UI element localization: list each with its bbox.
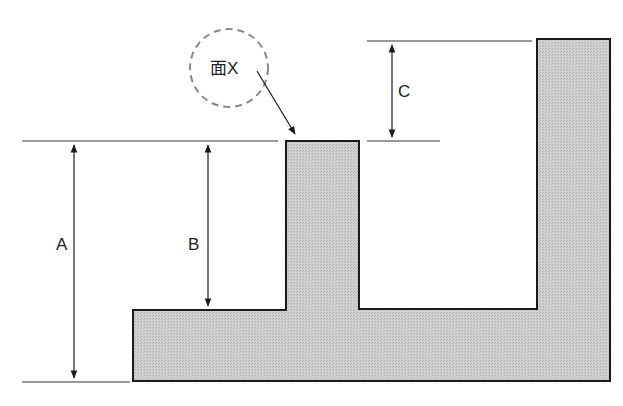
dimension-b-label: B: [188, 235, 199, 254]
section-shape: [133, 39, 610, 381]
face-x-leader-arrow: [257, 71, 295, 134]
dimension-c-label: C: [398, 82, 410, 101]
face-x-label: 面X: [210, 59, 238, 78]
dimension-a-label: A: [56, 235, 68, 254]
cross-section-diagram: A B C 面X: [0, 0, 623, 406]
